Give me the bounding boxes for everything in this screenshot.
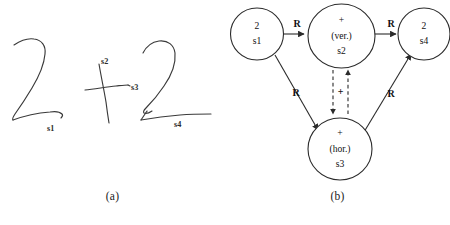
- edge-label-s3-s4: R: [387, 88, 395, 99]
- edge-label-s2-s3-plus: +: [338, 86, 344, 97]
- glyph-two-s1: [13, 39, 63, 120]
- node-s4-line-2: s4: [420, 35, 429, 46]
- edge-s3-s4: R: [364, 54, 411, 132]
- edge-label-s2-s4: R: [387, 18, 395, 29]
- stroke-s4-curve: [143, 41, 175, 114]
- panel-a-handwriting: s1 s2 s3 s4 (a): [0, 0, 225, 225]
- stroke-s2-vertical: [99, 64, 109, 123]
- node-s1-line-2: s1: [253, 35, 262, 46]
- stroke-s1-base: [13, 112, 62, 120]
- node-s1-line-1: 2: [255, 20, 260, 31]
- node-s4-line-1: 2: [422, 20, 427, 31]
- glyph-two-s4: [141, 41, 211, 120]
- node-s2-line-1: +: [339, 14, 344, 25]
- stroke-label-s1: s1: [47, 124, 54, 133]
- stroke-label-s2: s2: [101, 57, 108, 66]
- edge-s2-s4: R: [375, 18, 396, 34]
- panel-b-graph: R R R R +: [225, 0, 450, 225]
- node-s3-line-2: (hor.): [329, 143, 350, 155]
- stroke-s1-curve: [13, 39, 46, 120]
- node-s2-line-2: (ver.): [331, 30, 352, 42]
- stroke-label-s3: s3: [131, 83, 138, 92]
- node-s2-line-3: s2: [337, 45, 346, 56]
- figure-root: s1 s2 s3 s4 (a) R: [0, 0, 450, 225]
- caption-b: (b): [225, 190, 450, 202]
- panel-a-canvas: s1 s2 s3 s4: [0, 0, 225, 185]
- edge-label-s1-s2: R: [293, 18, 301, 29]
- edge-s1-s2: R: [284, 18, 304, 34]
- glyph-plus-s2-s3: [85, 64, 128, 123]
- node-s3[interactable]: + (hor.) s3: [308, 118, 372, 180]
- node-s1-circle[interactable]: [231, 8, 284, 60]
- node-s3-line-3: s3: [336, 158, 345, 169]
- edge-s2-s3-dashed: +: [333, 70, 348, 114]
- panel-b-canvas: R R R R +: [225, 0, 450, 185]
- stroke-s3-horizontal: [85, 85, 128, 90]
- node-s1[interactable]: 2 s1: [231, 8, 284, 60]
- leader-s3: [128, 85, 130, 86]
- node-s4[interactable]: 2 s4: [398, 8, 450, 60]
- node-s3-line-1: +: [337, 127, 342, 138]
- stroke-label-s4: s4: [174, 120, 181, 129]
- node-s4-circle[interactable]: [398, 8, 450, 60]
- edge-s1-s3: R: [275, 55, 318, 130]
- node-s2[interactable]: + (ver.) s2: [308, 4, 375, 68]
- caption-a: (a): [0, 190, 225, 202]
- edge-label-s1-s3: R: [292, 87, 300, 98]
